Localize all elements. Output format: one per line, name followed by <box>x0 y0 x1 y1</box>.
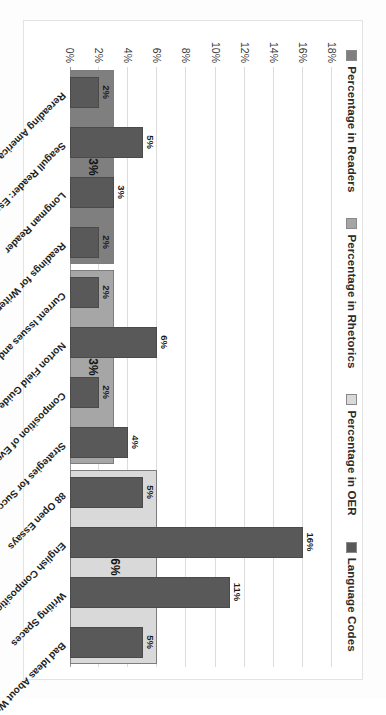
legend-label: Percentage in Readers <box>346 66 358 192</box>
series-bar-2 <box>70 176 114 207</box>
y-axis-tick-label: 8% <box>180 19 192 63</box>
series-bar-value-label: 2% <box>101 85 112 99</box>
series-bar-5 <box>70 326 157 357</box>
series-bar-value-label: 5% <box>145 635 156 649</box>
series-bar-4 <box>70 276 99 307</box>
legend-item-0: Percentage in Readers <box>346 50 358 192</box>
y-axis-tick-label: 12% <box>239 19 251 63</box>
legend-item-1: Percentage in Rhetorics <box>346 218 358 368</box>
series-bar-3 <box>70 226 99 257</box>
bar-chart: Percentage in ReadersPercentage in Rheto… <box>23 20 363 680</box>
rotated-figure-wrapper: Percentage in ReadersPercentage in Rheto… <box>23 20 363 680</box>
series-bar-9 <box>70 526 303 557</box>
series-bar-1 <box>70 126 143 157</box>
series-bar-value-label: 4% <box>130 435 141 449</box>
series-bar-value-label: 5% <box>145 135 156 149</box>
legend-swatch-icon <box>347 394 358 405</box>
y-axis-tick-label: 4% <box>122 19 134 63</box>
series-bar-0 <box>70 76 99 107</box>
y-axis-tick-label: 10% <box>210 19 222 63</box>
series-bar-value-label: 11% <box>232 582 243 601</box>
legend-item-2: Percentage in OER <box>346 394 358 515</box>
legend-label: Percentage in Rhetorics <box>346 234 358 368</box>
category-label-11: Bad Ideas About Writing <box>0 640 68 715</box>
series-bar-value-label: 16% <box>305 532 316 551</box>
gridline <box>331 67 332 667</box>
legend-swatch-icon <box>347 50 358 61</box>
series-bar-value-label: 3% <box>116 185 127 199</box>
category-axis-labels: Rereading AmericaSeagull Reader: EssaysL… <box>24 67 70 667</box>
series-bar-8 <box>70 476 143 507</box>
series-bar-6 <box>70 376 99 407</box>
series-bar-value-label: 2% <box>101 235 112 249</box>
gridline <box>244 67 245 667</box>
y-axis-tick-label: 14% <box>268 19 280 63</box>
gridline <box>302 67 303 667</box>
series-bar-value-label: 5% <box>145 485 156 499</box>
legend-swatch-icon <box>347 541 358 552</box>
gridline <box>273 67 274 667</box>
y-axis-tick-label: 2% <box>93 19 105 63</box>
y-axis-tick-label: 18% <box>326 19 338 63</box>
y-axis-tick-label: 0% <box>64 19 76 63</box>
category-label-4: Current Issues and Enduring Questions <box>0 290 68 431</box>
legend-item-3: Language Codes <box>346 541 358 651</box>
legend-swatch-icon <box>347 218 358 229</box>
y-axis-tick-label: 16% <box>297 19 309 63</box>
series-bar-value-label: 6% <box>159 335 170 349</box>
y-axis-tick-label: 6% <box>151 19 163 63</box>
series-bar-10 <box>70 576 230 607</box>
series-bar-11 <box>70 626 143 657</box>
series-bar-7 <box>70 426 128 457</box>
series-bar-value-label: 2% <box>101 385 112 399</box>
plot-area: 18%16%14%12%10%8%6%4%2%0%3%3%6%2%5%3%2%2… <box>70 67 332 667</box>
series-bar-value-label: 2% <box>101 285 112 299</box>
legend-label: Percentage in OER <box>346 410 358 515</box>
legend-label: Language Codes <box>346 557 358 651</box>
chart-legend: Percentage in ReadersPercentage in Rheto… <box>346 21 358 681</box>
